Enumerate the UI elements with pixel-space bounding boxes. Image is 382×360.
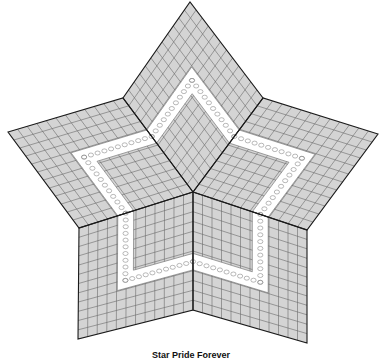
- star-quilt-diagram: [0, 0, 382, 360]
- diagram-caption: Star Pride Forever: [0, 350, 382, 360]
